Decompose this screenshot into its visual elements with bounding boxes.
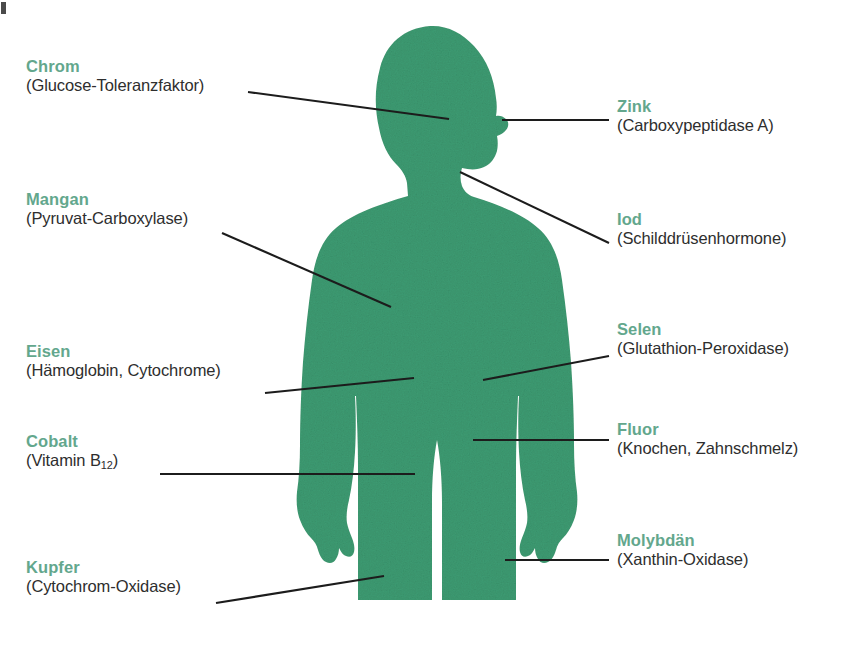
label-cobalt-function: (Vitamin B12)	[26, 451, 118, 472]
label-fluor-function: (Knochen, Zahnschmelz)	[617, 439, 798, 458]
label-mangan-function: (Pyruvat-Carboxylase)	[26, 209, 188, 228]
label-selen-element: Selen	[617, 320, 789, 339]
human-body-silhouette	[297, 26, 578, 600]
label-chrom-element: Chrom	[26, 57, 204, 76]
label-molybdaen: Molybdän (Xanthin-Oxidase)	[617, 531, 748, 570]
label-eisen-function: (Hämoglobin, Cytochrome)	[26, 361, 221, 380]
label-zink: Zink (Carboxypeptidase A)	[617, 97, 774, 136]
label-mangan-element: Mangan	[26, 190, 188, 209]
label-iod-element: Iod	[617, 210, 786, 229]
label-chrom: Chrom (Glucose-Toleranzfaktor)	[26, 57, 204, 96]
label-eisen: Eisen (Hämoglobin, Cytochrome)	[26, 342, 221, 381]
label-kupfer: Kupfer (Cytochrom-Oxidase)	[26, 558, 181, 597]
label-chrom-function: (Glucose-Toleranzfaktor)	[26, 76, 204, 95]
label-iod: Iod (Schilddrüsenhormone)	[617, 210, 786, 249]
label-mangan: Mangan (Pyruvat-Carboxylase)	[26, 190, 188, 229]
label-eisen-element: Eisen	[26, 342, 221, 361]
label-molybdaen-function: (Xanthin-Oxidase)	[617, 550, 748, 569]
label-molybdaen-element: Molybdän	[617, 531, 748, 550]
label-zink-element: Zink	[617, 97, 774, 116]
label-selen: Selen (Glutathion-Peroxidase)	[617, 320, 789, 359]
label-kupfer-function: (Cytochrom-Oxidase)	[26, 577, 181, 596]
label-fluor: Fluor (Knochen, Zahnschmelz)	[617, 420, 798, 459]
trace-elements-figure: Chrom (Glucose-Toleranzfaktor) Mangan (P…	[0, 0, 847, 648]
label-fluor-element: Fluor	[617, 420, 798, 439]
label-selen-function: (Glutathion-Peroxidase)	[617, 339, 789, 358]
label-cobalt: Cobalt (Vitamin B12)	[26, 432, 118, 472]
label-cobalt-element: Cobalt	[26, 432, 118, 451]
label-zink-function: (Carboxypeptidase A)	[617, 116, 774, 135]
label-iod-function: (Schilddrüsenhormone)	[617, 229, 786, 248]
label-kupfer-element: Kupfer	[26, 558, 181, 577]
